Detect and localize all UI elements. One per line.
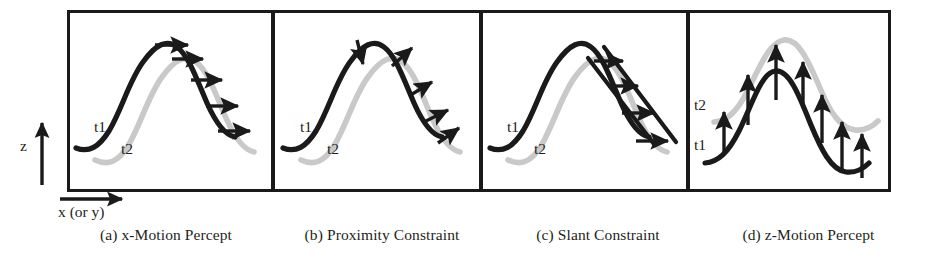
- panel-a-graphics: [76, 43, 254, 162]
- panel-c-t1-label: t1: [507, 118, 519, 136]
- panel-d-t2-label: t2: [694, 96, 706, 114]
- panel-b-graphics: [283, 40, 460, 163]
- panel-b-t1-label: t1: [300, 118, 312, 136]
- panel-c-graphics: [490, 43, 676, 162]
- panel-a-t2-label: t2: [121, 140, 133, 158]
- panel-d-t1-curve: [705, 71, 869, 172]
- panel-d-caption: (d) z-Motion Percept: [706, 226, 911, 244]
- panel-a-t1-label: t1: [94, 118, 106, 136]
- panel-b-caption: (b) Proximity Constraint: [274, 226, 490, 244]
- x-axis-label: x (or y): [58, 203, 105, 221]
- panel-d-motion-arrows: [724, 45, 862, 178]
- panel-c-t2-label: t2: [534, 140, 546, 158]
- panel-d-t1-label: t1: [694, 136, 706, 154]
- caption-row: (a) x-Motion Percept (b) Proximity Const…: [0, 226, 928, 254]
- panel-frames: [69, 12, 890, 191]
- z-axis-label: z: [20, 137, 27, 155]
- figure-root: z x (or y) t1 t2 t1 t2 t1 t2 t2 t1 (a) x…: [0, 0, 928, 266]
- panel-c-caption: (c) Slant Constraint: [498, 226, 698, 244]
- panel-b-t2-label: t2: [327, 140, 339, 158]
- panel-d-graphics: [705, 40, 878, 178]
- panel-a-caption: (a) x-Motion Percept: [58, 226, 274, 244]
